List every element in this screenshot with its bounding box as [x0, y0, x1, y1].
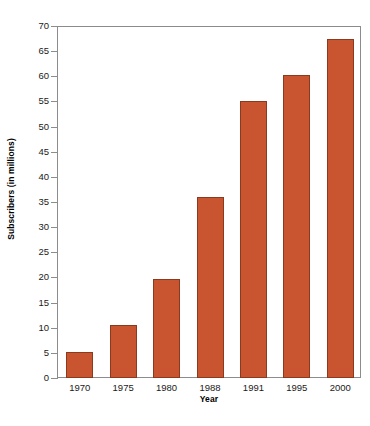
y-axis-tick-label: 5 — [5, 348, 49, 358]
y-axis-tick — [51, 252, 58, 253]
y-axis-tick-label: 10 — [5, 323, 49, 333]
y-axis-tick-labels: 0510152025303540455055606570 — [0, 0, 49, 426]
y-axis-tick-label: 0 — [5, 373, 49, 383]
x-axis-title: Year — [57, 394, 361, 404]
bar-slot — [327, 27, 354, 378]
bar — [283, 75, 310, 378]
y-axis-tick — [51, 177, 58, 178]
y-axis-tick-label: 20 — [5, 272, 49, 282]
y-axis-tick-label: 60 — [5, 71, 49, 81]
y-axis-tick — [51, 76, 58, 77]
y-axis-tick-label: 15 — [5, 298, 49, 308]
bar-slot — [240, 27, 267, 378]
y-axis-tick — [51, 127, 58, 128]
y-axis-tick-label: 25 — [5, 247, 49, 257]
bar-slot — [110, 27, 137, 378]
y-axis-tick-label: 45 — [5, 147, 49, 157]
y-axis-tick — [51, 277, 58, 278]
y-axis-tick — [51, 303, 58, 304]
bar-chart: Subscribers (in millions) 05101520253035… — [0, 0, 370, 426]
y-axis-tick — [51, 227, 58, 228]
bar-series — [58, 27, 360, 378]
y-axis-tick — [51, 328, 58, 329]
y-axis-tick — [51, 353, 58, 354]
y-axis-tick — [51, 378, 58, 379]
y-axis-tick — [51, 51, 58, 52]
bar-slot — [283, 27, 310, 378]
bar-slot — [66, 27, 93, 378]
bar — [240, 101, 267, 378]
bar-slot — [153, 27, 180, 378]
y-axis-tick — [51, 152, 58, 153]
y-axis-tick — [51, 101, 58, 102]
bar — [66, 352, 93, 378]
bar — [153, 279, 180, 378]
bar — [327, 39, 354, 378]
y-axis-tick-label: 65 — [5, 46, 49, 56]
y-axis-tick — [51, 26, 58, 27]
x-axis-tick-label: 2000 — [315, 382, 365, 393]
y-axis-tick-label: 40 — [5, 172, 49, 182]
y-axis-tick-label: 35 — [5, 197, 49, 207]
bar-slot — [197, 27, 224, 378]
y-axis-tick-label: 55 — [5, 96, 49, 106]
bar — [197, 197, 224, 378]
y-axis-tick-label: 70 — [5, 21, 49, 31]
y-axis-tick-label: 30 — [5, 222, 49, 232]
bar — [110, 325, 137, 378]
y-axis-tick-label: 50 — [5, 122, 49, 132]
y-axis-tick — [51, 202, 58, 203]
